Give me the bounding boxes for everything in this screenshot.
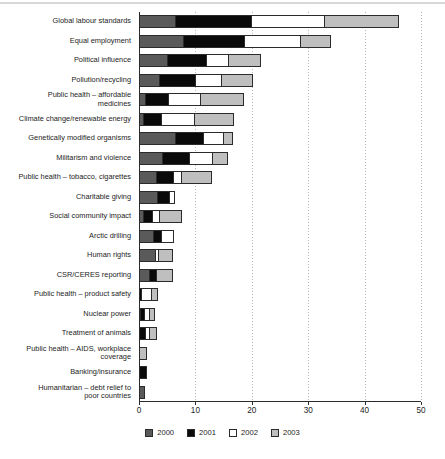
y-axis-label-line: Climate change/renewable energy <box>0 115 131 124</box>
x-tick-label: 50 <box>416 406 425 415</box>
stacked-bar[interactable] <box>139 288 158 301</box>
y-axis-label: Public health – tobacco, cigarettes <box>0 173 131 182</box>
legend-item-2002[interactable]: 2002 <box>229 428 258 437</box>
legend-label-2001: 2001 <box>199 428 216 437</box>
legend-item-2003[interactable]: 2003 <box>271 428 300 437</box>
stacked-bar[interactable] <box>139 308 155 321</box>
bar-row <box>139 12 421 32</box>
y-axis-label-line: Pollution/recycling <box>0 76 131 85</box>
legend-label-2000: 2000 <box>157 428 174 437</box>
y-axis-label-line: CSR/CERES reporting <box>0 271 131 280</box>
bar-segment-2000 <box>139 132 176 145</box>
x-tick-mark <box>365 402 366 405</box>
stacked-bar[interactable] <box>139 15 399 28</box>
bar-row <box>139 207 421 227</box>
y-axis-label-line: Global labour standards <box>0 17 131 26</box>
y-axis-label: Public health – affordablemedicines <box>0 91 131 108</box>
x-tick-mark <box>195 402 196 405</box>
stacked-bar[interactable] <box>139 327 157 340</box>
top-divider <box>0 2 445 4</box>
bar-segment-2003 <box>221 74 253 87</box>
bar-segment-2000 <box>139 54 168 67</box>
bar-row <box>139 168 421 188</box>
bar-row <box>139 227 421 247</box>
legend-swatch-2003 <box>271 429 279 437</box>
stacked-bar[interactable] <box>139 93 244 106</box>
bar-row <box>139 71 421 91</box>
x-tick-mark <box>139 402 140 405</box>
bar-row <box>139 324 421 344</box>
bar-segment-2003 <box>149 327 156 340</box>
stacked-bar[interactable] <box>139 113 234 126</box>
stacked-bar[interactable] <box>139 54 261 67</box>
x-axis-ticks: 01020304050 <box>139 402 421 416</box>
bar-row <box>139 51 421 71</box>
y-axis-label-line: medicines <box>0 100 131 109</box>
bar-segment-2003 <box>228 54 261 67</box>
bar-segment-2003 <box>200 93 245 106</box>
y-axis-label-line: Political influence <box>0 56 131 65</box>
bar-segment-2003 <box>149 308 155 321</box>
y-axis-label: Public health – product safety <box>0 290 131 299</box>
y-axis-label-line: Genetically modified organisms <box>0 134 131 143</box>
legend-swatch-2002 <box>229 429 237 437</box>
legend-item-2001[interactable]: 2001 <box>187 428 216 437</box>
bar-segment-2003 <box>300 35 332 48</box>
stacked-bar[interactable] <box>139 191 175 204</box>
bar-row <box>139 285 421 305</box>
x-tick-mark <box>308 402 309 405</box>
legend-item-2000[interactable]: 2000 <box>145 428 174 437</box>
bar-segment-2000 <box>139 386 145 399</box>
bar-segment-2002 <box>161 113 195 126</box>
stacked-bar[interactable] <box>139 366 147 379</box>
x-tick-label: 20 <box>247 406 256 415</box>
bar-segment-2002 <box>244 35 300 48</box>
stacked-bar[interactable] <box>139 74 253 87</box>
bar-segment-2001 <box>183 35 245 48</box>
y-axis-label-line: Public health – product safety <box>0 290 131 299</box>
bar-segment-2003 <box>223 132 233 145</box>
bar-segment-2000 <box>139 152 163 165</box>
bar-segment-2002 <box>206 54 229 67</box>
legend: 2000200120022003 <box>0 428 445 437</box>
y-axis-label: Charitable giving <box>0 193 131 202</box>
y-axis-label: Political influence <box>0 56 131 65</box>
y-axis-label-line: Treatment of animals <box>0 329 131 338</box>
gridline-50 <box>421 12 422 402</box>
bar-segment-2001 <box>139 366 147 379</box>
stacked-bar[interactable] <box>139 152 228 165</box>
bar-segment-2000 <box>139 249 156 262</box>
stacked-bar[interactable] <box>139 35 331 48</box>
legend-label-2003: 2003 <box>283 428 300 437</box>
bar-segment-2001 <box>175 132 204 145</box>
x-tick-label: 30 <box>304 406 313 415</box>
stacked-bar[interactable] <box>139 230 174 243</box>
stacked-bar[interactable] <box>139 347 147 360</box>
stacked-bar[interactable] <box>139 386 145 399</box>
bar-row <box>139 266 421 286</box>
y-axis-label-line: poor countries <box>0 392 131 401</box>
y-axis-label: Banking/insurance <box>0 368 131 377</box>
bar-row <box>139 32 421 52</box>
bar-segment-2000 <box>139 35 184 48</box>
stacked-bar[interactable] <box>139 210 182 223</box>
y-axis-label: Nuclear power <box>0 310 131 319</box>
bar-segment-2000 <box>139 191 158 204</box>
bar-segment-2001 <box>159 74 195 87</box>
stacked-bar[interactable] <box>139 249 173 262</box>
stacked-bar-chart: Global labour standardsEqual employmentP… <box>0 0 445 459</box>
stacked-bar[interactable] <box>139 269 173 282</box>
bar-segment-2002 <box>161 230 174 243</box>
plot-area <box>139 12 421 402</box>
x-tick-label: 10 <box>191 406 200 415</box>
bar-row <box>139 90 421 110</box>
y-axis-label-line: Arctic drilling <box>0 232 131 241</box>
legend-swatch-2001 <box>187 429 195 437</box>
y-axis-label: Militarism and violence <box>0 154 131 163</box>
bar-row <box>139 363 421 383</box>
bar-segment-2002 <box>251 15 325 28</box>
bar-segment-2001 <box>175 15 252 28</box>
stacked-bar[interactable] <box>139 171 212 184</box>
stacked-bar[interactable] <box>139 132 233 145</box>
bar-segment-2003 <box>324 15 399 28</box>
